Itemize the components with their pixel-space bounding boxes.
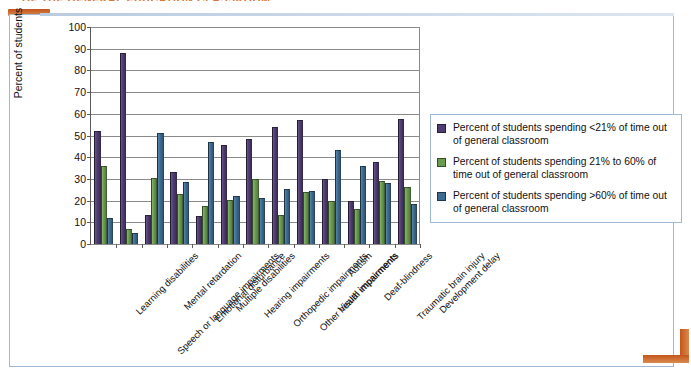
bar-group [294, 27, 319, 244]
bar-group [116, 27, 141, 244]
page-header-cut-text: OF THE GENERAL EDUCATION CLASSROOM [22, 0, 271, 1]
bar-chart: Percent of students 01020304050607080901… [18, 18, 658, 348]
page-root: OF THE GENERAL EDUCATION CLASSROOM Perce… [0, 0, 691, 385]
legend-swatch-icon-series0 [437, 124, 446, 133]
legend-item-series2[interactable]: Percent of students spending >60% of tim… [437, 190, 675, 215]
bar-group [142, 27, 167, 244]
bar-group [395, 27, 420, 244]
orange-accent-tab-bottom [643, 355, 689, 363]
legend-swatch-icon-series2 [437, 192, 446, 201]
legend-label-series0: Percent of students spending <21% of tim… [453, 122, 675, 147]
bar-group [167, 27, 192, 244]
legend-label-series1: Percent of students spending 21% to 60% … [453, 156, 675, 181]
y-tick-label: 30 [74, 173, 86, 185]
bar[interactable] [309, 191, 315, 244]
legend-item-series1[interactable]: Percent of students spending 21% to 60% … [437, 156, 675, 181]
y-tick-label: 70 [74, 86, 86, 98]
y-tick-label: 40 [74, 151, 86, 163]
y-tick-mark [87, 244, 91, 245]
x-axis-labels: Learning disabilitiesSpeech or language … [90, 250, 420, 348]
y-tick-label: 90 [74, 43, 86, 55]
bar-group [268, 27, 293, 244]
legend-item-series0[interactable]: Percent of students spending <21% of tim… [437, 122, 675, 147]
bar[interactable] [208, 142, 214, 244]
bar[interactable] [183, 182, 189, 244]
bar[interactable] [132, 233, 138, 244]
bar[interactable] [335, 150, 341, 244]
legend-swatch-icon-series1 [437, 158, 446, 167]
bar-group [319, 27, 344, 244]
bar[interactable] [411, 204, 417, 244]
bar-group [192, 27, 217, 244]
bar-group [344, 27, 369, 244]
bar[interactable] [233, 196, 239, 244]
y-tick-label: 20 [74, 195, 86, 207]
y-tick-label: 50 [74, 130, 86, 142]
bar-groups [91, 27, 420, 244]
bar[interactable] [385, 183, 391, 244]
y-axis-label: Percent of students [12, 0, 24, 113]
bar-group [369, 27, 394, 244]
y-tick-label: 10 [74, 216, 86, 228]
bar[interactable] [360, 166, 366, 244]
y-tick-label: 100 [68, 21, 86, 33]
bar-group [243, 27, 268, 244]
gridline [91, 244, 420, 245]
bar[interactable] [107, 218, 113, 244]
y-tick-label: 60 [74, 108, 86, 120]
bar[interactable] [259, 198, 265, 244]
y-tick-label: 80 [74, 64, 86, 76]
plot-area: 0102030405060708090100 [90, 27, 420, 245]
bar[interactable] [284, 189, 290, 244]
chart-legend: Percent of students spending <21% of tim… [430, 114, 682, 223]
bar[interactable] [157, 133, 163, 244]
bar[interactable] [120, 53, 126, 244]
frame-top-highlight [40, 13, 674, 16]
bar-group [218, 27, 243, 244]
bar-group [91, 27, 116, 244]
y-tick-label: 0 [80, 238, 86, 250]
legend-label-series2: Percent of students spending >60% of tim… [453, 190, 675, 215]
